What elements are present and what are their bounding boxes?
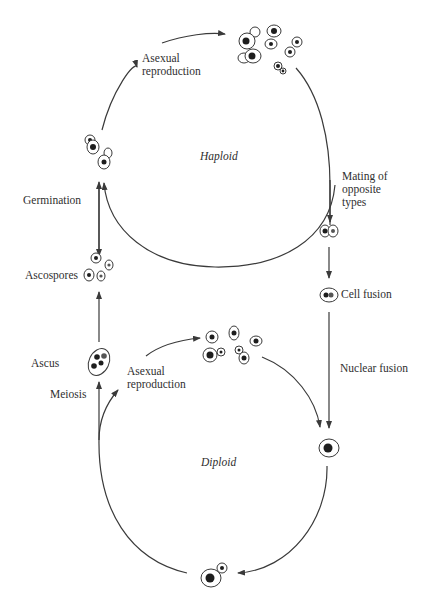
label-meiosis: Meiosis <box>50 388 86 401</box>
label-asexual-reproduction-top: Asexual reproduction <box>142 52 201 78</box>
diploid-zygote <box>319 439 339 457</box>
label-haploid: Haploid <box>200 150 238 163</box>
diagram-graphics <box>0 0 429 607</box>
label-ascospores: Ascospores <box>25 269 78 282</box>
label-ascus: Ascus <box>31 357 59 370</box>
haploid-lower-arc <box>104 183 335 267</box>
mating-cells <box>320 225 338 237</box>
label-nuclear-fusion: Nuclear fusion <box>340 362 408 375</box>
asexual-arrow-top <box>102 66 137 130</box>
label-diploid: Diploid <box>201 456 236 469</box>
label-asexual-reproduction-bottom: Asexual reproduction <box>127 365 186 391</box>
ascus <box>84 345 114 379</box>
life-cycle-diagram: Asexual reproduction Haploid Mating of o… <box>0 0 429 607</box>
diploid-budding-cell <box>201 563 227 587</box>
budding-cells-left <box>85 135 112 169</box>
haploid-cells-top <box>238 25 302 74</box>
diploid-cells-top <box>203 326 262 364</box>
ascospores <box>84 253 113 281</box>
haploid-right-arc <box>296 68 330 225</box>
label-mating: Mating of opposite types <box>342 170 388 209</box>
label-germination: Germination <box>23 194 81 207</box>
label-cell-fusion: Cell fusion <box>341 288 392 301</box>
fused-cell <box>320 288 338 302</box>
